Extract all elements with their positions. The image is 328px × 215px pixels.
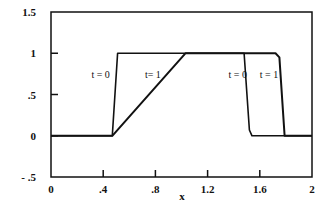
chart: - .50.511.5 0.4.81.21.62 t = 0t= 1t = 0t… (0, 0, 328, 215)
series-group (51, 53, 312, 136)
x-tick-label: .8 (151, 183, 160, 195)
x-tick-label: 2 (309, 183, 315, 195)
plot-frame (51, 12, 312, 177)
y-tick-label: .5 (28, 89, 37, 101)
y-tick-label: - .5 (21, 171, 36, 183)
x-tick-label: .4 (99, 183, 108, 195)
y-axis-ticks: - .50.511.5 (21, 6, 58, 183)
series-line-1 (51, 53, 312, 136)
series-line-0 (51, 53, 312, 136)
curve-labels: t = 0t= 1t = 0t = 1 (91, 69, 278, 80)
x-tick-label: 1.2 (201, 183, 215, 195)
curve-label: t = 1 (260, 69, 278, 80)
x-axis-label: x (179, 190, 185, 202)
x-tick-label: 0 (48, 183, 54, 195)
y-tick-label: 1 (31, 47, 37, 59)
y-tick-label: 0 (31, 130, 37, 142)
curve-label: t = 0 (228, 69, 246, 80)
x-tick-label: 1.6 (253, 183, 267, 195)
curve-label: t = 0 (91, 69, 109, 80)
y-tick-label: 1.5 (22, 6, 36, 18)
curve-label: t= 1 (145, 69, 161, 80)
